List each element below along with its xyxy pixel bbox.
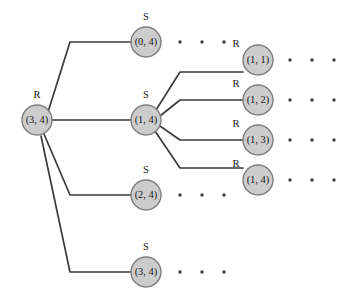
node-label-s14: (1, 4) (135, 114, 158, 126)
player-label-s04: S (143, 11, 149, 22)
ellipsis-dot (288, 98, 291, 101)
ellipsis-after-r13 (288, 138, 335, 141)
node-label-r12: (1, 2) (247, 94, 270, 106)
ellipsis-dot (178, 270, 181, 273)
tree-node-root[interactable]: (3, 4)R (22, 89, 52, 135)
ellipsis-dot (222, 40, 225, 43)
tree-node-s24[interactable]: (2, 4)S (131, 164, 161, 210)
ellipsis-dot (200, 270, 203, 273)
tree-node-r14[interactable]: (1, 4)R (232, 158, 273, 195)
ellipsis-dot (288, 138, 291, 141)
ellipsis-after-r11 (288, 58, 335, 61)
node-label-s34: (3, 4) (135, 266, 158, 278)
nodes-group: (3, 4)R(0, 4)S(1, 4)S(2, 4)S(3, 4)S(1, 1… (22, 11, 273, 287)
node-label-s04: (0, 4) (135, 36, 158, 48)
ellipsis-dot (332, 98, 335, 101)
ellipsis-after-s34 (178, 270, 225, 273)
ellipsis-dot (178, 193, 181, 196)
ellipsis-dot (178, 40, 181, 43)
ellipsis-dot (332, 138, 335, 141)
node-label-root: (3, 4) (26, 114, 49, 126)
ellipsis-after-r12 (288, 98, 335, 101)
node-label-r14: (1, 4) (247, 174, 270, 186)
edge-s14-r14 (155, 131, 243, 168)
tree-node-s14[interactable]: (1, 4)S (131, 89, 161, 135)
edge-root-s24 (44, 134, 131, 195)
ellipsis-after-s04 (178, 40, 225, 43)
tree-node-s04[interactable]: (0, 4)S (131, 11, 161, 57)
edges-group (41, 42, 243, 272)
ellipsis-dot (200, 193, 203, 196)
tree-canvas: (3, 4)R(0, 4)S(1, 4)S(2, 4)S(3, 4)S(1, 1… (0, 0, 351, 300)
player-label-r13: R (232, 118, 239, 129)
tree-node-r11[interactable]: (1, 1)R (232, 38, 273, 75)
ellipsis-dot (310, 98, 313, 101)
ellipsis-dot (222, 270, 225, 273)
edge-s14-r13 (160, 126, 243, 140)
player-label-s24: S (143, 164, 149, 175)
ellipsis-dot (310, 178, 313, 181)
player-label-r12: R (232, 78, 239, 89)
node-label-s24: (2, 4) (135, 189, 158, 201)
edge-root-s04 (48, 42, 131, 112)
node-label-r11: (1, 1) (247, 54, 270, 66)
tree-node-r12[interactable]: (1, 2)R (232, 78, 273, 115)
ellipsis-dot (332, 58, 335, 61)
ellipsis-dot (310, 58, 313, 61)
edge-s14-r12 (160, 100, 243, 116)
player-label-root: R (33, 89, 40, 100)
ellipsis-after-r14 (288, 178, 335, 181)
tree-node-r13[interactable]: (1, 3)R (232, 118, 273, 155)
ellipsis-dot (310, 138, 313, 141)
player-label-s34: S (143, 241, 149, 252)
edge-s14-r11 (156, 72, 243, 110)
tree-node-s34[interactable]: (3, 4)S (131, 241, 161, 287)
ellipsis-dot (332, 178, 335, 181)
player-label-r14: R (232, 158, 239, 169)
node-label-r13: (1, 3) (247, 134, 270, 146)
game-tree-diagram: (3, 4)R(0, 4)S(1, 4)S(2, 4)S(3, 4)S(1, 1… (0, 0, 351, 300)
ellipsis-dot (200, 40, 203, 43)
ellipsis-dot (222, 193, 225, 196)
player-label-r11: R (232, 38, 239, 49)
player-label-s14: S (143, 89, 149, 100)
edge-root-s34 (41, 136, 131, 272)
ellipsis-dot (288, 58, 291, 61)
ellipsis-dot (288, 178, 291, 181)
ellipsis-after-s24 (178, 193, 225, 196)
